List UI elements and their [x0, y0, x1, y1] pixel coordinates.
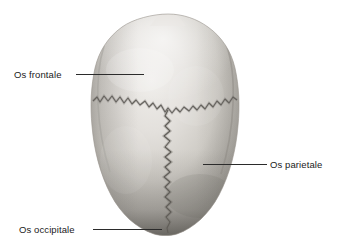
label-os-occipitale: Os occipitale [19, 225, 75, 235]
anatomical-figure: Os frontale Os parietale Os occipitale [0, 0, 337, 246]
leader-line-os-frontale [76, 74, 144, 75]
label-os-parietale: Os parietale [270, 160, 322, 170]
leader-line-os-occipitale [93, 229, 162, 230]
skull-superior-view-image [0, 0, 337, 246]
label-os-frontale: Os frontale [14, 70, 62, 80]
leader-line-os-parietale [203, 164, 267, 165]
